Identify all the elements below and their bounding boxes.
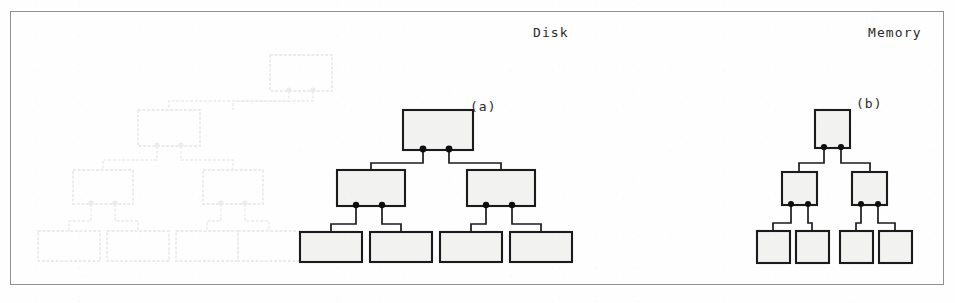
figure-part-label-b: (b) (856, 96, 882, 111)
figure-root: Disk Memory (a) (b) (0, 0, 955, 303)
page-frame (10, 11, 944, 285)
section-label-disk: Disk (533, 25, 569, 40)
section-label-memory: Memory (868, 25, 922, 40)
figure-part-label-a: (a) (470, 99, 496, 114)
